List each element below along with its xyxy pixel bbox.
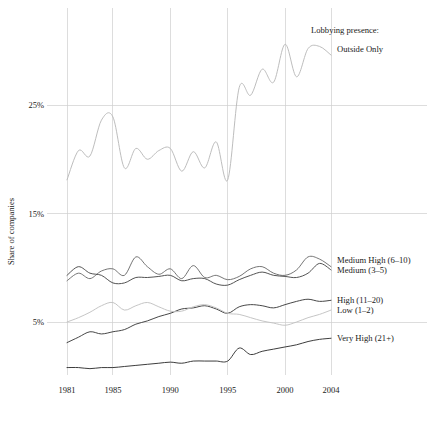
x-tick-label-1981: 1981 bbox=[59, 385, 76, 395]
y-axis-title: Share of companies bbox=[6, 198, 16, 265]
x-tick-label-1985: 1985 bbox=[104, 385, 121, 395]
series-labels-group: Outside OnlyMedium High (6–10)Medium (3–… bbox=[337, 44, 411, 344]
data-line-medium-3-5 bbox=[67, 263, 331, 285]
x-tick-label-2000: 2000 bbox=[277, 385, 294, 395]
gridlines-group bbox=[47, 8, 427, 375]
data-line-very-high-21 bbox=[67, 338, 331, 368]
x-tick-label-2004: 2004 bbox=[323, 385, 341, 395]
x-axis-ticks-group: 198119851990199520002004 bbox=[59, 385, 341, 395]
legend-title: Lobbying presence: bbox=[311, 25, 379, 35]
series-label-medium-high-6-10: Medium High (6–10) bbox=[337, 255, 411, 265]
y-tick-label-15%: 15% bbox=[28, 209, 44, 219]
series-label-outside-only: Outside Only bbox=[337, 44, 384, 54]
y-tick-label-5%: 5% bbox=[33, 317, 44, 327]
data-lines-group bbox=[67, 44, 331, 368]
data-line-outside-only bbox=[67, 44, 331, 181]
series-label-very-high-21: Very High (21+) bbox=[337, 333, 394, 343]
series-label-high-11-20: High (11–20) bbox=[337, 295, 383, 305]
chart-figure: 5%15%25% 198119851990199520002004 Outsid… bbox=[0, 0, 437, 421]
y-tick-label-25%: 25% bbox=[28, 100, 44, 110]
x-tick-label-1995: 1995 bbox=[219, 385, 236, 395]
y-axis-ticks-group: 5%15%25% bbox=[28, 100, 44, 327]
series-label-low-1-2: Low (1–2) bbox=[337, 305, 374, 315]
line-chart-plot: 5%15%25% 198119851990199520002004 Outsid… bbox=[0, 0, 437, 421]
x-tick-label-1990: 1990 bbox=[162, 385, 179, 395]
series-label-medium-3-5: Medium (3–5) bbox=[337, 265, 387, 275]
